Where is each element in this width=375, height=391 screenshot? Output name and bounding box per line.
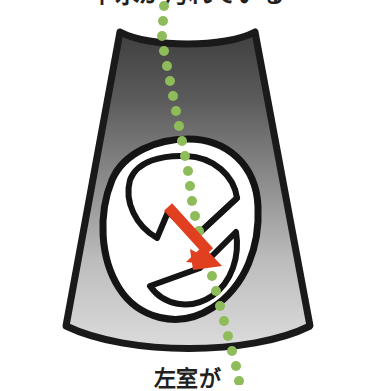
path-dot: [223, 331, 233, 341]
fetal-head-group: [103, 139, 258, 319]
path-dot: [159, 46, 169, 56]
path-dot: [185, 181, 195, 191]
path-dot: [171, 106, 181, 116]
path-dot: [180, 151, 190, 161]
path-dot: [187, 196, 197, 206]
path-dot: [215, 301, 225, 311]
path-dot: [162, 61, 172, 71]
path-dot: [227, 346, 237, 356]
path-dot: [219, 316, 229, 326]
path-dot: [174, 121, 184, 131]
path-dot: [177, 136, 187, 146]
path-dot: [159, 1, 169, 11]
path-dot: [165, 76, 175, 86]
path-dot: [207, 271, 217, 281]
path-dot: [190, 211, 200, 221]
path-dot: [168, 91, 178, 101]
path-dot: [157, 31, 167, 41]
path-dot: [211, 286, 221, 296]
caption-bottom: 左室が: [0, 367, 375, 391]
path-dot: [158, 16, 168, 26]
path-dot: [183, 166, 193, 176]
